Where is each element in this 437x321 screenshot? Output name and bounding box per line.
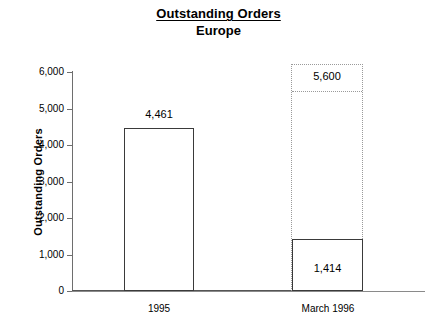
y-tick-label: 5,000 bbox=[39, 102, 64, 115]
bar-value-label-1995: 4,461 bbox=[145, 108, 173, 120]
y-tick-mark bbox=[67, 255, 72, 256]
y-tick-mark bbox=[67, 218, 72, 219]
y-tick-mark bbox=[67, 182, 72, 183]
y-tick-label: 2,000 bbox=[39, 211, 64, 224]
y-tick-label: 3,000 bbox=[39, 175, 64, 188]
title-block: Outstanding Orders Europe bbox=[0, 4, 437, 39]
plot-area: Outstanding Orders 0 1,000 2,000 3,000 4… bbox=[72, 72, 425, 291]
projection-label-divider bbox=[292, 91, 362, 92]
y-tick-mark bbox=[67, 109, 72, 110]
page-title: Outstanding Orders bbox=[156, 6, 281, 21]
x-tick-label-1995: 1995 bbox=[148, 303, 170, 314]
x-axis-line bbox=[72, 291, 425, 292]
y-tick-mark bbox=[67, 291, 72, 292]
y-tick-label: 1,000 bbox=[39, 248, 64, 261]
y-tick-label: 4,000 bbox=[39, 138, 64, 151]
y-tick-label: 0 bbox=[58, 284, 64, 297]
y-tick-mark bbox=[67, 145, 72, 146]
y-tick-label: 6,000 bbox=[39, 65, 64, 78]
chart-subtitle: Europe bbox=[0, 23, 437, 39]
chart-container: Outstanding Orders Europe Outstanding Or… bbox=[0, 0, 437, 321]
bar-1995[interactable]: 4,461 bbox=[124, 128, 194, 291]
x-tick-label-march-1996: March 1996 bbox=[302, 303, 355, 314]
bar-value-label-march-1996: 1,414 bbox=[314, 262, 342, 274]
y-tick-mark bbox=[67, 72, 72, 73]
bar-march-1996[interactable]: 1,414 bbox=[292, 239, 363, 291]
projection-value-label: 5,600 bbox=[313, 70, 341, 82]
